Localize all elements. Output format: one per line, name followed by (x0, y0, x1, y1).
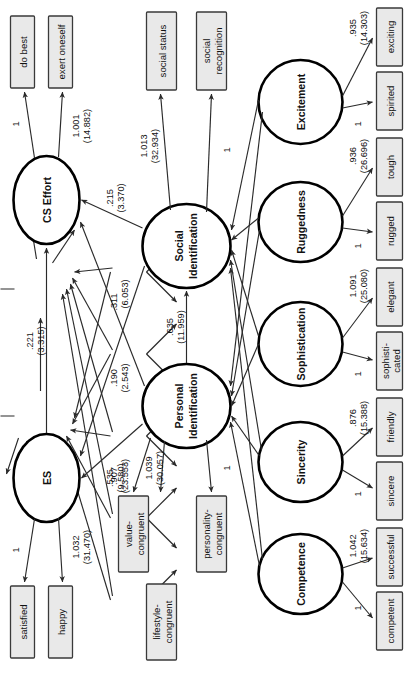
coef-sincerity-sincere: 1 (352, 491, 362, 496)
indicator-label-sincere: sincere (384, 476, 395, 507)
latent-label-sophistication: Sophistication (294, 308, 306, 381)
coef-pi-es-est: .535 (104, 469, 114, 487)
coef-es-cs-est: .221 (24, 332, 34, 350)
coef-si-cs-est: .215 (104, 189, 114, 207)
coef-competence-successful-est: 1.042 (347, 535, 357, 558)
indicator-label-do-best: do best (17, 36, 28, 68)
edge-sophistication-elegant (342, 298, 372, 338)
indicator-label-lifestyle-congruent-line1: lifestyle- (150, 604, 161, 639)
coef-cs-do-best: 1 (10, 121, 20, 126)
latent-label-social-identification-line1: Social (172, 230, 184, 261)
coef-ruggedness-tough-est: .936 (347, 147, 357, 165)
coef-pi-cs-est: .190 (108, 369, 118, 387)
coef-pi-si-est: .635 (164, 318, 174, 336)
coef-excitement-spirited: 1 (352, 121, 362, 126)
coef-si-status-est: 1.013 (138, 135, 148, 158)
coef-si-es-t: (6.053) (119, 279, 129, 308)
edge-si-to-social-recognition (206, 94, 211, 212)
coef-pi-cs-t: (2.543) (119, 363, 129, 392)
edge-competence-pi (230, 422, 259, 566)
coef-sincerity-friendly-t: (15.388) (358, 401, 368, 435)
indicator-label-satisfied: satisfied (17, 604, 28, 639)
edge-sophistication-sophisticated (342, 352, 372, 360)
coef-pi-es-t: (9.580) (115, 463, 125, 492)
latent-label-cs-effort: CS Effort (40, 177, 52, 223)
edge-sincerity-to-friendly (146, 488, 176, 518)
coef-si-cs-t: (3.370) (115, 183, 125, 212)
coef-pi-lifestyle-t: (30.057) (154, 451, 164, 485)
indicator-label-tough: tough (384, 155, 395, 179)
edge-cs-to-do-best (24, 92, 34, 158)
coef-es-happy-est: 1.032 (70, 536, 80, 559)
coef-si-status-t: (32.934) (149, 129, 159, 163)
edge-si-to-social-status (160, 94, 170, 210)
coef-si-es-est: .311 (108, 293, 118, 310)
indicator-label-successful: successful (384, 535, 395, 580)
coef-pi-si-t: (11.959) (175, 310, 185, 344)
indicator-label-value-congruent-line2: congruent (134, 512, 145, 555)
coef-ruggedness-rugged: 1 (352, 243, 362, 248)
indicator-label-social-status: social status (156, 24, 167, 77)
coef-pi-lifestyle-est: 1.039 (143, 457, 153, 480)
latent-label-sincerity: Sincerity (294, 440, 306, 485)
latent-label-ruggedness: Ruggedness (294, 190, 306, 254)
edge-excitement-pi (230, 112, 262, 386)
edge-cs-to-exert-oneself (58, 92, 62, 157)
indicator-label-personality-congruent-line1: personality- (200, 509, 211, 559)
edge-es-to-happy (58, 518, 62, 582)
sem-diagram-figure: satisfied happy do best exert oneself ES… (0, 0, 411, 674)
latent-label-competence: Competence (294, 542, 306, 606)
coef-cs-exert-t: (14.882) (81, 109, 91, 143)
indicator-label-personality-congruent-line2: congruent (212, 512, 223, 555)
coef-excitement-exciting-t: (14.303) (358, 11, 368, 45)
coef-sophistication-sophisticated: 1 (352, 371, 362, 376)
indicator-label-sophisticated-line1: sophisti- (379, 343, 390, 379)
indicator-label-elegant: elegant (384, 281, 395, 313)
latent-label-social-identification-line2: Identification (186, 213, 198, 279)
sem-path-diagram-canvas: satisfied happy do best exert oneself ES… (0, 0, 411, 674)
indicator-label-rugged: rugged (384, 216, 395, 246)
coef-sophistication-elegant-t: (25.080) (358, 269, 368, 303)
edge-excitement-si (231, 100, 258, 230)
edge-excitement-spirited (342, 102, 372, 108)
latent-label-excitement: Excitement (294, 73, 306, 130)
edge-ruggedness-si (231, 218, 258, 240)
indicator-label-value-congruent-line1: value- (122, 521, 133, 547)
edge-sincerity-to-sincere (146, 518, 176, 548)
indicator-label-social-recognition-line1: social (200, 39, 211, 64)
coef-es-satisfied: 1 (10, 547, 20, 552)
coef-competence-successful-t: (15.634) (358, 529, 368, 563)
indicator-label-exciting: exciting (384, 21, 395, 54)
latent-label-personal-identification-line2: Identification (186, 373, 198, 439)
diagram-rotation-wrapper: satisfied happy do best exert oneself ES… (0, 0, 411, 674)
indicator-label-exert-oneself: exert oneself (55, 24, 66, 79)
coef-excitement-exciting-est: .935 (347, 19, 357, 37)
coef-es-happy-t: (31.470) (81, 530, 91, 564)
edge-sophistication-to-personal-identification (70, 430, 110, 436)
indicator-label-social-recognition-line2: recognition (212, 28, 223, 75)
coef-sincerity-friendly-est: .876 (347, 409, 357, 427)
edge-competence-competent (342, 582, 372, 618)
edge-sincerity-sincere (342, 470, 372, 488)
coef-ruggedness-tough-t: (26.696) (358, 139, 368, 173)
edge-ruggedness-tough (342, 168, 372, 216)
coef-sophistication-elegant-est: 1.091 (347, 275, 357, 298)
edge-ruggedness-rugged (342, 228, 372, 232)
latent-label-personal-identification-line1: Personal (172, 384, 184, 429)
indicator-label-friendly: friendly (384, 411, 395, 442)
coef-pi-personality: 1 (221, 465, 231, 470)
coef-es-cs-t: (3.315) (35, 326, 45, 355)
latent-label-es: ES (40, 471, 52, 485)
indicator-label-spirited: spirited (384, 86, 395, 117)
edge-sincerity-pi (231, 416, 259, 456)
edge-excitement-exciting (342, 38, 372, 96)
coef-si-recognition: 1 (221, 147, 231, 152)
indicator-label-competent: competent (384, 598, 395, 643)
edge-excitement-to-social-identification (74, 268, 112, 272)
coef-cs-exert-est: 1.001 (70, 115, 80, 138)
coef-competence-competent: 1 (352, 605, 362, 610)
indicator-label-lifestyle-congruent-line2: congruent (162, 600, 173, 643)
indicator-label-sophisticated-line2: cated (390, 349, 401, 372)
edge-es-to-satisfied (24, 519, 34, 582)
edge-pi-to-personality (206, 440, 211, 492)
